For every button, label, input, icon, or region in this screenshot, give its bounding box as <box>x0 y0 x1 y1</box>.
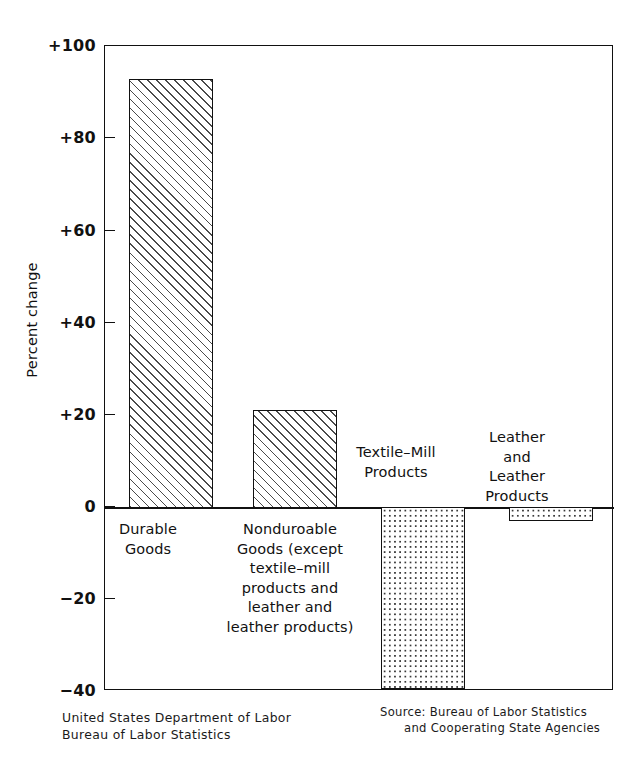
bar-label-line: Products <box>326 463 466 483</box>
y-tick-label-neg40: −40 <box>34 681 96 700</box>
bar-nondurable-goods <box>253 410 337 508</box>
bar-label-line: Goods (except <box>212 540 368 560</box>
bar-label-line: Goods <box>88 540 208 560</box>
footer-source: Source: Bureau of Labor Statistics and C… <box>380 705 600 737</box>
footer-agency-line1: United States Department of Labor <box>62 709 291 726</box>
bar-label-durable-goods: Durable Goods <box>88 520 208 559</box>
y-axis-tick-labels: +100 +80 +60 +40 +20 0 −20 −40 <box>30 0 96 764</box>
y-tick-label-80: +80 <box>34 128 96 147</box>
bar-textile-mill-products <box>381 507 465 689</box>
bar-label-line: products and <box>212 579 368 599</box>
y-tick-label-60: +60 <box>34 221 96 240</box>
bar-label-line: Textile–Mill <box>326 443 466 463</box>
y-tick-label-40: +40 <box>34 313 96 332</box>
bar-label-line: leather and <box>212 598 368 618</box>
footer-source-line1: Source: Bureau of Labor Statistics <box>380 705 600 721</box>
y-tick-label-20: +20 <box>34 405 96 424</box>
bar-label-line: Nonduroable <box>212 520 368 540</box>
bar-label-line: Leather <box>452 428 582 448</box>
bar-label-nondurable-goods: Nonduroable Goods (except textile–mill p… <box>212 520 368 637</box>
y-tick-label-neg20: −20 <box>34 589 96 608</box>
percent-change-bar-chart: Percent change +100 +80 +60 +40 +20 0 −2… <box>0 0 641 764</box>
y-tick-label-100: +100 <box>34 36 96 55</box>
bar-label-leather-and-leather-products: Leather and Leather Products <box>452 428 582 506</box>
bar-label-textile-mill-products: Textile–Mill Products <box>326 443 466 482</box>
bar-leather-and-leather-products <box>509 507 593 521</box>
footer-source-line2: and Cooperating State Agencies <box>380 721 600 737</box>
bar-label-line: Products <box>452 487 582 507</box>
footer-agency-line2: Bureau of Labor Statistics <box>62 726 291 743</box>
y-tick-label-0: 0 <box>34 497 96 516</box>
footer-agency: United States Department of Labor Bureau… <box>62 709 291 743</box>
bar-label-line: textile–mill <box>212 559 368 579</box>
bar-label-line: Durable <box>88 520 208 540</box>
bar-durable-goods <box>129 79 213 508</box>
bar-label-line: and <box>452 448 582 468</box>
bar-label-line: leather products) <box>212 618 368 638</box>
bar-label-line: Leather <box>452 467 582 487</box>
